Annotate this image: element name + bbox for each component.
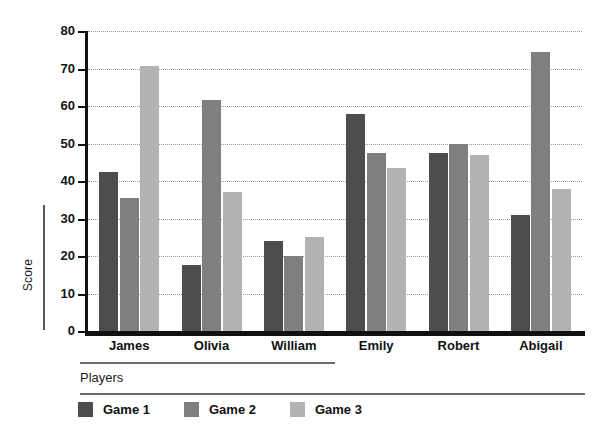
bar[interactable] (387, 168, 406, 331)
x-axis-category-label: James (84, 338, 174, 353)
gridline (88, 219, 582, 220)
x-axis-category-label: Olivia (167, 338, 257, 353)
bar[interactable] (140, 66, 159, 332)
bar[interactable] (182, 265, 201, 331)
x-axis-category-label: Robert (414, 338, 504, 353)
legend-swatch-icon (290, 402, 305, 417)
bar[interactable] (470, 155, 489, 331)
x-axis-category-label: William (249, 338, 339, 353)
y-axis-tick (78, 31, 86, 33)
gridline (88, 294, 582, 295)
y-axis-tick-label: 70 (43, 61, 75, 76)
gridline (88, 31, 582, 32)
bar[interactable] (264, 241, 283, 331)
bar[interactable] (223, 192, 242, 331)
bar[interactable] (511, 215, 530, 331)
y-axis-tick (78, 256, 86, 258)
chart-canvas: Score 01020304050607080 JamesOliviaWilli… (0, 0, 609, 441)
x-axis-category-label: Emily (331, 338, 421, 353)
bar[interactable] (202, 100, 221, 331)
y-axis-tick-label: 30 (43, 211, 75, 226)
y-axis-tick (78, 69, 86, 71)
y-axis-tick-label: 20 (43, 248, 75, 263)
y-axis-tick-label: 40 (43, 173, 75, 188)
bar[interactable] (346, 114, 365, 332)
y-axis-tick (78, 294, 86, 296)
bar[interactable] (367, 153, 386, 331)
x-axis-title-rule-bottom (80, 393, 585, 395)
legend-swatch-icon (184, 402, 199, 417)
legend-swatch-icon (78, 402, 93, 417)
bar[interactable] (284, 256, 303, 331)
gridline (88, 69, 582, 70)
bar[interactable] (552, 189, 571, 332)
y-axis-tick (78, 219, 86, 221)
gridline (88, 181, 582, 182)
y-axis-tick (78, 181, 86, 183)
bar[interactable] (99, 172, 118, 331)
x-axis-spine (85, 331, 585, 336)
y-axis-tick (78, 144, 86, 146)
x-axis-title: Players (80, 370, 123, 385)
bar[interactable] (120, 198, 139, 331)
bar[interactable] (449, 144, 468, 332)
legend-item[interactable]: Game 2 (184, 402, 256, 417)
gridline (88, 256, 582, 257)
x-axis-title-rule-top (80, 362, 335, 364)
gridline (88, 106, 582, 107)
bar[interactable] (531, 52, 550, 331)
legend-item[interactable]: Game 3 (290, 402, 362, 417)
chart-legend: Game 1Game 2Game 3 (78, 402, 396, 417)
y-axis-title: Score (21, 235, 35, 315)
y-axis-tick-label: 10 (43, 286, 75, 301)
legend-label: Game 2 (209, 402, 256, 417)
bar[interactable] (429, 153, 448, 331)
y-axis-tick-label: 50 (43, 136, 75, 151)
x-axis-category-label: Abigail (496, 338, 586, 353)
y-axis-tick-label: 80 (43, 23, 75, 38)
gridline (88, 144, 582, 145)
y-axis-tick-label: 60 (43, 98, 75, 113)
bar[interactable] (305, 237, 324, 331)
legend-label: Game 3 (315, 402, 362, 417)
legend-label: Game 1 (103, 402, 150, 417)
y-axis-tick-label: 0 (43, 323, 75, 338)
plot-area (88, 31, 582, 331)
legend-item[interactable]: Game 1 (78, 402, 150, 417)
y-axis-tick (78, 106, 86, 108)
